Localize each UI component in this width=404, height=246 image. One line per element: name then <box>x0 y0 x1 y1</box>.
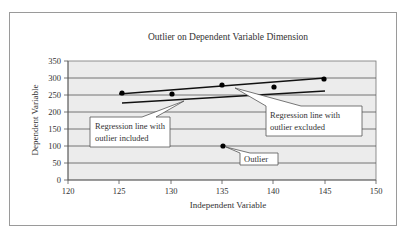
svg-text:150: 150 <box>370 186 383 196</box>
data-point <box>169 91 174 96</box>
data-point <box>119 90 124 95</box>
y-axis-label: Dependent Variable <box>30 84 40 155</box>
svg-text:Regression line with: Regression line with <box>270 110 341 120</box>
outlier-point <box>220 143 225 148</box>
x-tick-labels: 120 125 130 135 140 145 150 <box>62 186 383 196</box>
svg-text:145: 145 <box>319 186 332 196</box>
data-point <box>219 82 224 87</box>
y-tick-labels: 350 300 250 200 150 100 50 0 <box>48 56 61 185</box>
svg-text:Outlier: Outlier <box>244 154 268 164</box>
svg-text:0: 0 <box>57 175 61 185</box>
svg-text:200: 200 <box>48 107 61 117</box>
svg-text:125: 125 <box>113 186 126 196</box>
x-axis-label: Independent Variable <box>190 200 267 210</box>
chart-title: Outlier on Dependent Variable Dimension <box>148 32 308 42</box>
svg-text:100: 100 <box>48 141 61 151</box>
svg-text:50: 50 <box>53 158 62 168</box>
svg-text:120: 120 <box>62 186 75 196</box>
data-point <box>321 76 326 81</box>
svg-text:outlier included: outlier included <box>95 133 149 143</box>
svg-text:135: 135 <box>216 186 229 196</box>
data-point <box>271 84 276 89</box>
svg-text:300: 300 <box>48 73 61 83</box>
svg-text:140: 140 <box>267 186 280 196</box>
svg-text:Regression line with: Regression line with <box>95 121 166 131</box>
chart-svg: Outlier on Dependent Variable Dimension … <box>0 0 404 246</box>
svg-text:outlier excluded: outlier excluded <box>270 122 326 132</box>
svg-text:130: 130 <box>165 186 178 196</box>
svg-text:350: 350 <box>48 56 61 66</box>
svg-text:250: 250 <box>48 90 61 100</box>
svg-text:150: 150 <box>48 124 61 134</box>
